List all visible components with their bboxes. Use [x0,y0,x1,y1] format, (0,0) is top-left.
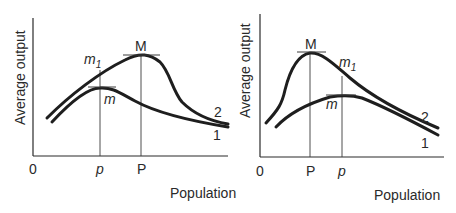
right-curve-1 [276,96,438,135]
left-label-m1: m1 [84,51,101,70]
right-label-m: m [326,96,338,112]
right-curve-2-label: 2 [421,109,429,125]
left-origin-label: 0 [29,161,37,177]
left-tick-P: P [137,161,146,177]
right-y-axis-label: Average output [237,23,253,118]
left-x-axis-label: Population [170,185,236,201]
right-label-M: M [305,36,317,52]
left-tick-p: p [95,161,104,177]
left-curve-2 [47,55,228,124]
right-curve-1-label: 1 [421,135,429,151]
right-tick-P: P [306,163,315,179]
right-tick-p: p [337,163,346,179]
left-panel: Average output M m1 m 2 1 0 p P Populati… [12,18,236,201]
left-curve-2-label: 2 [214,104,222,120]
right-x-axis-label: Population [374,187,440,203]
diagram-canvas: Average output M m1 m 2 1 0 p P Populati… [0,0,456,213]
left-curve-1-label: 1 [213,127,221,143]
left-curve-1 [52,88,228,127]
left-y-axis-label: Average output [12,30,28,125]
left-label-M: M [135,38,147,54]
right-panel: Average output M m1 m 2 1 0 P p Populati… [237,14,444,203]
left-label-m: m [104,91,116,107]
right-origin-label: 0 [256,163,264,179]
